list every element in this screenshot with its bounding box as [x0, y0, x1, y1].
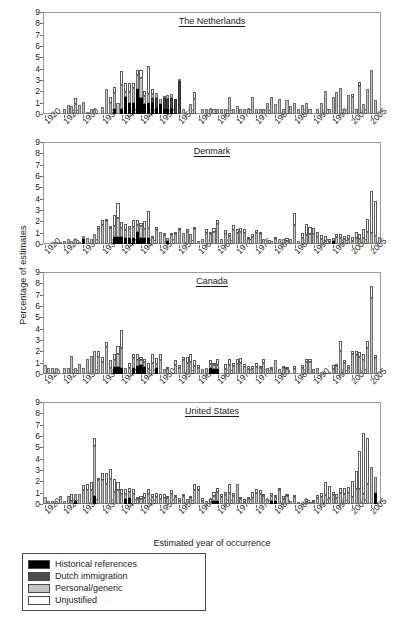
bar-segment-pers	[90, 356, 93, 374]
bar-segment-pers	[197, 368, 200, 374]
bar-segment-pers	[239, 499, 242, 504]
bar-segment-pers	[201, 369, 204, 374]
bar-segment-unj	[308, 227, 311, 234]
bar	[328, 373, 331, 374]
bar	[113, 87, 116, 114]
panel-denmark: Denmark0123456789	[43, 142, 381, 244]
bar-segment-pers	[143, 229, 146, 238]
bar-segment-pers	[374, 358, 377, 374]
bar	[316, 109, 319, 114]
bar	[163, 96, 166, 114]
bar-segment-pers	[270, 369, 273, 374]
bar-segment-unj	[305, 224, 308, 235]
legend-swatch-dutch	[28, 572, 50, 581]
bar	[124, 368, 127, 374]
bar-segment-pers	[59, 496, 62, 504]
bar	[120, 330, 123, 374]
bar-segment-pers	[297, 241, 300, 244]
bar-segment-pers	[70, 356, 73, 374]
bar	[166, 367, 169, 374]
bar-segment-pers	[47, 368, 50, 374]
bar	[347, 235, 350, 244]
bar-segment-pers	[320, 239, 323, 244]
bar-segment-pers	[139, 499, 142, 504]
bar	[205, 368, 208, 374]
bar	[351, 351, 354, 374]
bar-segment-unj	[116, 346, 119, 354]
bar-segment-pers	[370, 70, 373, 114]
bar-segment-pers	[282, 368, 285, 374]
bar-segment-pers	[109, 479, 112, 504]
bar-segment-pers	[209, 109, 212, 114]
bar-segment-pers	[220, 239, 223, 244]
bar-segment-pers	[47, 501, 50, 504]
bar	[189, 354, 192, 374]
bar	[251, 234, 254, 244]
bar	[347, 487, 350, 504]
bar	[236, 229, 239, 244]
bar	[205, 229, 208, 244]
bar-segment-hist	[120, 237, 123, 244]
bar	[278, 369, 281, 374]
bar	[82, 368, 85, 374]
bar-segment-pers	[358, 489, 361, 504]
bar-segment-hist	[143, 367, 146, 374]
bar	[59, 496, 62, 504]
bar-segment-pers	[120, 85, 123, 110]
bar-segment-pers	[143, 498, 146, 504]
bar	[105, 473, 108, 504]
bar-segment-hist	[139, 238, 142, 244]
bar	[151, 354, 154, 374]
bar-segment-pers	[228, 365, 231, 374]
bar	[132, 354, 135, 374]
bar-segment-pers	[347, 95, 350, 114]
bar-segment-unj	[189, 354, 192, 362]
bar-segment-hist	[136, 89, 139, 114]
bar	[170, 233, 173, 244]
bar-segment-unj	[147, 66, 150, 93]
bar	[128, 83, 131, 114]
bar-segment-pers	[178, 368, 181, 374]
bar	[274, 237, 277, 244]
bar-segment-pers	[351, 97, 354, 114]
bar	[151, 89, 154, 114]
bar-segment-pers	[228, 493, 231, 504]
bar	[47, 368, 50, 374]
bar-segment-unj	[293, 213, 296, 224]
legend-label: Personal/generic	[55, 584, 123, 593]
bar	[228, 484, 231, 504]
bar	[182, 357, 185, 374]
bar-segment-pers	[374, 236, 377, 244]
bar-segment-pers	[178, 501, 181, 504]
bar	[47, 501, 50, 504]
bar-segment-pers	[228, 97, 231, 114]
bar	[139, 357, 142, 374]
bar-segment-pers	[293, 497, 296, 504]
bar	[343, 109, 346, 114]
bar-segment-pers	[343, 109, 346, 114]
bar-segment-unj	[113, 354, 116, 361]
bar	[366, 341, 369, 374]
bar	[297, 502, 300, 504]
bar-segment-pers	[243, 367, 246, 374]
bar-segment-hist	[166, 109, 169, 114]
bar-segment-pers	[358, 239, 361, 244]
bar	[285, 238, 288, 244]
bar	[67, 496, 70, 504]
bar-segment-pers	[113, 226, 116, 237]
bar	[316, 368, 319, 374]
legend-swatch-hist	[28, 560, 50, 569]
bar	[43, 365, 46, 374]
bar	[293, 103, 296, 114]
bar-segment-unj	[370, 286, 373, 298]
bar-segment-unj	[370, 191, 373, 233]
bar-segment-pers	[236, 364, 239, 374]
bar	[128, 488, 131, 504]
bar-segment-hist	[113, 237, 116, 244]
bar	[166, 496, 169, 504]
bar	[70, 106, 73, 114]
bar	[255, 489, 258, 504]
bar	[201, 369, 204, 374]
bar	[339, 88, 342, 114]
bar	[193, 360, 196, 374]
